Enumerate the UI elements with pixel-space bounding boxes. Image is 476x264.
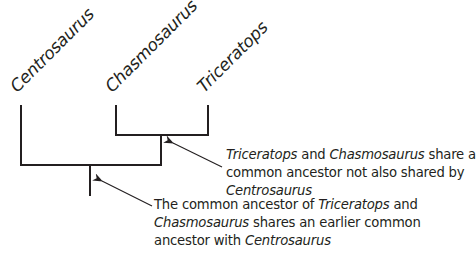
annotation-line: ancestor with Centrosaurus	[154, 232, 421, 250]
taxon-name-text: Chasmosaurus	[329, 147, 424, 162]
annotation-inner-node: Triceratops and Chasmosaurus share acomm…	[226, 146, 476, 200]
annotation-text: and	[389, 197, 417, 212]
annotation-line: Chasmosaurus shares an earlier common	[154, 214, 421, 232]
taxon-name-text: Centrosaurus	[245, 233, 331, 248]
taxon-name-text: Triceratops	[318, 197, 389, 212]
annotation-line: Triceratops and Chasmosaurus share a	[226, 146, 476, 164]
annotation-text: and	[297, 147, 329, 162]
annotation-line: The common ancestor of Triceratops and	[154, 196, 421, 214]
annotation-text: common ancestor not also shared by	[226, 165, 464, 180]
annotation-text: ancestor with	[154, 233, 245, 248]
annotation-text: share a	[424, 147, 475, 162]
annotation-text: shares an earlier common	[249, 215, 421, 230]
taxon-name-text: Chasmosaurus	[154, 215, 249, 230]
annotation-root-node: The common ancestor of Triceratops andCh…	[154, 196, 421, 250]
annotation-text: The common ancestor of	[154, 197, 318, 212]
annotation-line: common ancestor not also shared by	[226, 164, 476, 182]
taxon-name-text: Triceratops	[226, 147, 297, 162]
arrow-root-node	[102, 181, 152, 206]
arrow-inner-node	[173, 143, 222, 167]
